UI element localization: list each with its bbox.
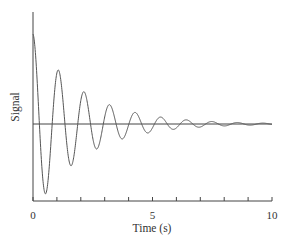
x-axis-tick-labels: 0510 xyxy=(30,209,278,221)
x-tick-label: 0 xyxy=(30,209,36,221)
x-tick-label: 5 xyxy=(150,209,156,221)
damped-signal-chart: 0510 Time (s) Signal xyxy=(0,0,290,242)
x-axis-ticks xyxy=(33,197,272,201)
plot-area: 0510 xyxy=(30,12,278,221)
signal-curve xyxy=(33,34,272,194)
x-axis-title: Time (s) xyxy=(133,222,172,235)
x-tick-label: 10 xyxy=(267,209,279,221)
y-axis-title: Signal xyxy=(9,92,22,121)
